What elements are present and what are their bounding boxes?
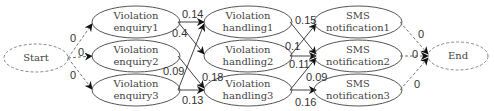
node-handling1[interactable]: Violation handling1 bbox=[204, 6, 292, 38]
node-end-label: End bbox=[448, 50, 469, 61]
node-handling1-line2: handling1 bbox=[223, 22, 274, 33]
node-handling2[interactable]: Violation handling2 bbox=[204, 40, 292, 72]
node-sms2-line2: notification2 bbox=[326, 56, 390, 67]
node-sms3-line2: notification3 bbox=[326, 90, 390, 101]
node-enquiry3-line2: enquiry3 bbox=[113, 90, 158, 101]
node-handling3-line2: handling3 bbox=[223, 90, 274, 101]
label-start-enquiry2: 0 bbox=[78, 46, 84, 58]
node-handling2-line2: handling2 bbox=[223, 56, 274, 67]
label-start-enquiry1: 0 bbox=[70, 32, 76, 44]
node-enquiry3-line1: Violation bbox=[112, 78, 159, 89]
node-handling3-line1: Violation bbox=[224, 78, 271, 89]
label-handling2-sms2: 0.11 bbox=[289, 58, 310, 70]
label-sms2-end: 0 bbox=[412, 48, 418, 60]
node-enquiry2-line1: Violation bbox=[112, 44, 159, 55]
node-enquiry3[interactable]: Violation enquiry3 bbox=[92, 74, 180, 106]
node-enquiry1-line1: Violation bbox=[112, 10, 159, 21]
label-handling3-sms2: 0.09 bbox=[306, 71, 327, 83]
node-sms2-line1: SMS bbox=[346, 44, 370, 55]
node-handling2-line1: Violation bbox=[224, 44, 271, 55]
label-enquiry2-handling3: 0.18 bbox=[202, 71, 223, 83]
label-enquiry1-handling2: 0.4 bbox=[172, 27, 187, 39]
node-sms3-line1: SMS bbox=[346, 78, 370, 89]
node-handling1-line1: Violation bbox=[224, 10, 271, 21]
label-enquiry3-handling3: 0.13 bbox=[182, 94, 203, 106]
node-sms2[interactable]: SMS notification2 bbox=[314, 40, 402, 72]
node-enquiry1-line2: enquiry1 bbox=[113, 22, 158, 33]
label-handling1-sms2: 0.15 bbox=[295, 14, 316, 26]
label-handling3-sms3: 0.16 bbox=[295, 96, 316, 108]
node-enquiry1[interactable]: Violation enquiry1 bbox=[92, 6, 180, 38]
node-sms1-line2: notification1 bbox=[326, 22, 390, 33]
label-sms3-end: 0 bbox=[414, 78, 420, 90]
node-end[interactable]: End bbox=[428, 42, 488, 70]
label-enquiry3-handling1: 0.09 bbox=[163, 65, 184, 77]
node-start[interactable]: Start bbox=[4, 44, 68, 72]
node-start-label: Start bbox=[23, 52, 49, 63]
node-enquiry2-line2: enquiry2 bbox=[113, 56, 158, 67]
label-enquiry1-handling1: 0.14 bbox=[182, 8, 203, 20]
label-handling2-sms1: 0.1 bbox=[285, 40, 300, 52]
label-sms1-end: 0 bbox=[418, 28, 424, 40]
node-sms1-line1: SMS bbox=[346, 10, 370, 21]
workflow-diagram: Start Violation enquiry1 Violation enqui… bbox=[0, 0, 494, 111]
label-start-enquiry3: 0 bbox=[70, 69, 76, 81]
node-sms1[interactable]: SMS notification1 bbox=[314, 6, 402, 38]
